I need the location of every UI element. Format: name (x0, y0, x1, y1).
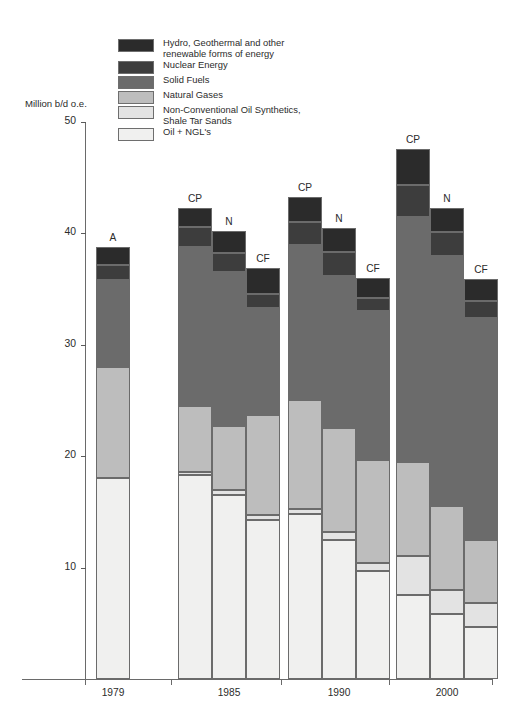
bar-segment-gas (464, 540, 498, 603)
x-tick-label: 1990 (309, 687, 369, 698)
bar-segment-nuclear (396, 185, 430, 216)
y-axis-title: Million b/d o.e. (25, 98, 87, 109)
y-tick-mark (81, 122, 86, 123)
bar-segment-solid (396, 217, 430, 462)
bar-segment-solid (356, 311, 390, 459)
y-axis-line (85, 122, 86, 679)
y-tick-label: 50 (50, 115, 76, 126)
y-tick-mark (81, 456, 86, 457)
bar-segment-oil (464, 627, 498, 679)
bar-scenario-label: CF (461, 264, 501, 275)
bar-segment-gas (246, 415, 280, 515)
y-tick-label: 10 (50, 561, 76, 572)
bar-segment-hydro (96, 247, 130, 265)
bar-segment-oil (356, 571, 390, 679)
bar-segment-oil (212, 495, 246, 679)
bar-segment-nonconv (322, 532, 356, 540)
bar-segment-solid (96, 280, 130, 367)
bar-segment-solid (430, 256, 464, 507)
chart-root: Hydro, Geothermal and other renewable fo… (0, 0, 509, 723)
bar-segment-nonconv (396, 556, 430, 595)
bar-segment-nonconv (288, 509, 322, 515)
bar-segment-gas (430, 506, 464, 590)
bar-segment-hydro (178, 208, 212, 227)
stacked-bar (96, 247, 130, 679)
bar-scenario-label: A (93, 232, 133, 243)
bar-segment-gas (356, 460, 390, 564)
bar-scenario-label: CF (353, 263, 393, 274)
bar-segment-hydro (356, 278, 390, 298)
stacked-bar (288, 197, 322, 679)
stacked-bar (322, 228, 356, 679)
bar-segment-hydro (464, 279, 498, 301)
bar-segment-solid (288, 245, 322, 401)
bar-segment-solid (178, 247, 212, 406)
bar-segment-nuclear (430, 232, 464, 255)
bar-segment-oil (288, 514, 322, 679)
y-tick-label: 40 (50, 226, 76, 237)
stacked-bar (396, 149, 430, 679)
bar-scenario-label: N (319, 213, 359, 224)
x-tick-mark (281, 679, 282, 685)
y-tick-mark (81, 345, 86, 346)
bar-segment-oil (322, 540, 356, 679)
bar-segment-solid (212, 272, 246, 426)
bar-segment-nonconv (356, 563, 390, 571)
bar-segment-hydro (396, 149, 430, 186)
y-tick-mark (81, 568, 86, 569)
bar-scenario-label: CP (285, 182, 325, 193)
bar-segment-nonconv (178, 472, 212, 475)
bar-segment-solid (464, 318, 498, 540)
stacked-bar (464, 279, 498, 679)
x-tick-label: 1985 (199, 687, 259, 698)
stacked-bar (246, 268, 280, 679)
bar-segment-oil (246, 520, 280, 679)
bar-segment-gas (178, 406, 212, 472)
bar-segment-nuclear (464, 301, 498, 318)
bar-segment-nuclear (96, 265, 130, 281)
stacked-bar (212, 231, 246, 679)
bar-segment-nonconv (430, 590, 464, 615)
bar-segment-oil (178, 475, 212, 679)
y-tick-mark (81, 233, 86, 234)
bar-segment-hydro (430, 208, 464, 233)
bar-segment-oil (396, 595, 430, 679)
bar-scenario-label: CP (175, 193, 215, 204)
bar-segment-hydro (322, 228, 356, 253)
bar-segment-solid (246, 308, 280, 415)
bar-segment-nuclear (246, 294, 280, 308)
bar-scenario-label: N (209, 216, 249, 227)
plot-area: Million b/d o.e. 5040302010 197919851990… (0, 0, 509, 723)
bar-segment-nonconv (212, 490, 246, 496)
x-tick-label: 2000 (417, 687, 477, 698)
bar-segment-hydro (212, 231, 246, 253)
stacked-bar (356, 278, 390, 679)
y-tick-label: 30 (50, 338, 76, 349)
bar-segment-nuclear (356, 298, 390, 311)
bar-segment-hydro (288, 197, 322, 223)
bar-scenario-label: CF (243, 253, 283, 264)
x-tick-mark (492, 679, 493, 685)
bar-segment-gas (322, 428, 356, 532)
bar-segment-nuclear (288, 222, 322, 244)
bar-segment-gas (396, 462, 430, 557)
x-tick-mark (85, 679, 86, 685)
bar-segment-gas (212, 426, 246, 489)
bar-segment-nuclear (178, 227, 212, 247)
bar-segment-solid (322, 276, 356, 429)
x-tick-mark (171, 679, 172, 685)
bar-segment-nuclear (212, 253, 246, 272)
bar-segment-nuclear (322, 252, 356, 275)
x-tick-mark (389, 679, 390, 685)
bar-scenario-label: N (427, 193, 467, 204)
bar-segment-hydro (246, 268, 280, 294)
x-axis-line (22, 679, 492, 680)
bar-segment-gas (96, 367, 130, 478)
stacked-bar (178, 208, 212, 679)
stacked-bar (430, 208, 464, 679)
y-tick-label: 20 (50, 449, 76, 460)
bar-segment-gas (288, 400, 322, 508)
x-tick-label: 1979 (83, 687, 143, 698)
bar-scenario-label: CP (393, 134, 433, 145)
bar-segment-oil (96, 478, 130, 679)
